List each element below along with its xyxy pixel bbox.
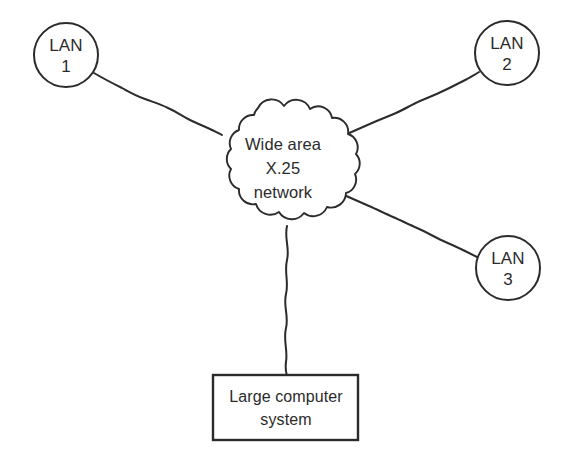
- diagram-svg-canvas: Wide area X.25 network LAN 1 LAN 2 LAN 3…: [0, 0, 575, 469]
- cloud-label-line-2: X.25: [266, 159, 300, 177]
- network-diagram: Wide area X.25 network LAN 1 LAN 2 LAN 3…: [0, 0, 575, 469]
- link-cloud-to-host: [285, 226, 288, 376]
- lan1-label-line-2: 1: [61, 57, 71, 76]
- link-cloud-to-lan3: [344, 195, 479, 258]
- host-label-line-1: Large computer: [229, 388, 343, 405]
- cloud-label-line-1: Wide area: [245, 135, 322, 153]
- large-computer-system-box: [213, 375, 358, 440]
- link-lan1-to-cloud: [94, 73, 222, 135]
- lan2-label-line-2: 2: [502, 55, 512, 74]
- host-label-line-2: system: [260, 411, 311, 428]
- link-cloud-to-lan2: [347, 72, 479, 134]
- lan3-label-line-2: 3: [503, 270, 513, 289]
- lan3-label-line-1: LAN: [491, 249, 525, 268]
- lan1-label-line-1: LAN: [49, 36, 83, 55]
- lan2-label-line-1: LAN: [490, 34, 524, 53]
- cloud-label-line-3: network: [254, 183, 313, 201]
